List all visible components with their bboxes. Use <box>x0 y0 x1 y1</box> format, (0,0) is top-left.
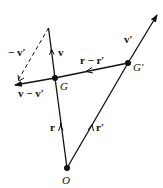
point-G <box>52 75 58 81</box>
label-v-minus-v-prime: v − v′ <box>18 87 44 99</box>
vector-neg-v-prime-arrow <box>18 75 24 81</box>
point-O <box>64 165 70 171</box>
label-G-prime: G′ <box>133 61 144 73</box>
label-r-minus-r-prime: r − r′ <box>80 54 104 66</box>
label-v-prime: v′ <box>124 33 133 45</box>
point-G-prime <box>125 60 131 66</box>
label-v: v <box>58 46 64 58</box>
vector-diagram: O G G′ r r′ v v′ r − r′ v − v′ − v′ <box>0 0 163 188</box>
label-r-prime: r′ <box>96 121 104 133</box>
label-r: r <box>50 121 55 133</box>
label-neg-v-prime: − v′ <box>8 46 26 58</box>
vector-v-line <box>49 28 56 78</box>
vector-v-minus-v-prime-line <box>15 78 55 85</box>
label-G: G <box>60 80 68 92</box>
label-O: O <box>62 174 70 186</box>
vector-r-mid-arrow <box>59 125 64 131</box>
vector-r-prime-line <box>67 63 128 168</box>
